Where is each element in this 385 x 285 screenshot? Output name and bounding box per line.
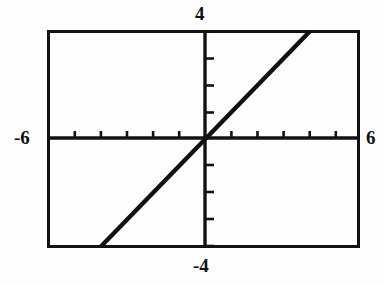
graph-canvas [0,0,385,285]
graph-screenshot: -6 6 4 -4 [0,0,385,285]
y-axis-min-label: -4 [193,256,209,275]
x-axis-min-label: -6 [14,128,30,147]
x-axis-max-label: 6 [366,128,376,147]
y-axis-max-label: 4 [195,4,205,23]
